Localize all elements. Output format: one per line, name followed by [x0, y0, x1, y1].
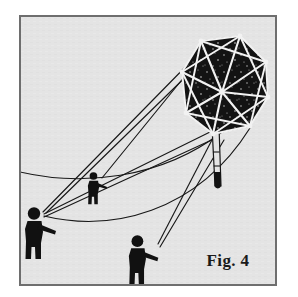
figure-canvas: Fig. 4 [0, 0, 298, 297]
figure-illustration: Fig. 4 [0, 0, 298, 297]
tail-tip [214, 172, 221, 188]
figure-caption: Fig. 4 [206, 251, 249, 270]
